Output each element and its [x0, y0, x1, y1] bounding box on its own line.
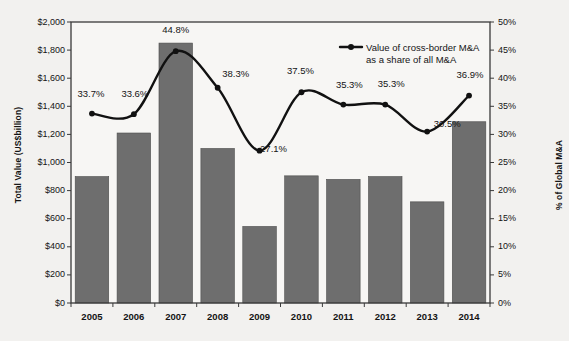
y-axis-right-tick-label: 30%: [498, 130, 538, 139]
line-data-label: 35.3%: [326, 79, 372, 90]
line-data-label: 33.6%: [112, 88, 158, 99]
x-axis-tick-label: 2014: [443, 311, 495, 322]
y-axis-right-tick-label: 5%: [498, 270, 538, 279]
line-data-label: 37.5%: [277, 65, 323, 76]
y-axis-right-tick-label: 45%: [498, 46, 538, 55]
y-axis-right-tick-label: 15%: [498, 214, 538, 223]
line-data-label: 30.5%: [424, 118, 470, 129]
line-data-label: 44.8%: [153, 24, 199, 35]
y-axis-right-tick-label: 35%: [498, 102, 538, 111]
combo-chart: Total Value (US$billion) % of Global M&A…: [0, 0, 569, 341]
line-data-label: 38.3%: [213, 68, 259, 79]
line-data-label: 35.3%: [368, 78, 414, 89]
y-axis-left-tick-label: $2,000: [8, 18, 65, 27]
legend-label-line1: Value of cross-border M&A: [366, 42, 479, 54]
y-axis-left-tick-label: $600: [8, 214, 65, 223]
y-axis-left-tick-label: $800: [8, 186, 65, 195]
y-axis-left-tick-label: $1,000: [8, 158, 65, 167]
y-axis-right-tick-label: 25%: [498, 158, 538, 167]
y-axis-left-tick-label: $1,200: [8, 130, 65, 139]
y-axis-right-tick-label: 0%: [498, 299, 538, 308]
y-axis-right-tick-label: 40%: [498, 74, 538, 83]
y-axis-right-tick-label: 10%: [498, 242, 538, 251]
line-data-label: 33.7%: [68, 88, 114, 99]
y-axis-left-tick-label: $400: [8, 242, 65, 251]
y-axis-right-tick-label: 20%: [498, 186, 538, 195]
line-data-label: 36.9%: [447, 69, 493, 80]
y-axis-left-tick-label: $1,400: [8, 102, 65, 111]
y-axis-left-tick-label: $1,600: [8, 74, 65, 83]
legend-label-line2: as a share of all M&A: [366, 54, 456, 66]
y-axis-left-tick-label: $1,800: [8, 46, 65, 55]
y-axis-right-tick-label: 50%: [498, 18, 538, 27]
plot-area: [0, 0, 569, 341]
line-data-label: 27.1%: [251, 143, 297, 154]
y-axis-left-tick-label: $200: [8, 270, 65, 279]
y-axis-left-tick-label: $0: [8, 299, 65, 308]
